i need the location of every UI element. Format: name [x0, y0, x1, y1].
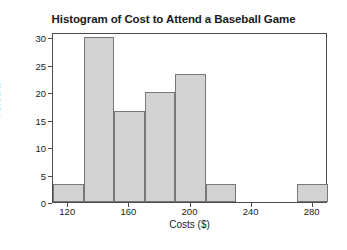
y-tick-label: 5	[2, 170, 46, 181]
x-tick-label: 200	[182, 206, 198, 217]
x-tick-label: 120	[59, 206, 75, 217]
bars-container	[53, 34, 326, 202]
y-tick-label: 30	[2, 33, 46, 44]
x-axis-label: Costs ($)	[52, 219, 327, 230]
histogram-bar	[175, 74, 206, 202]
histogram-bar	[206, 184, 237, 202]
x-tick-mark	[312, 203, 313, 207]
y-tick-label: 0	[2, 198, 46, 209]
y-tick-label: 25	[2, 60, 46, 71]
x-tick-label: 160	[120, 206, 136, 217]
y-tick-mark	[48, 203, 52, 204]
y-tick-label: 20	[2, 88, 46, 99]
x-tick-mark	[251, 203, 252, 207]
histogram-bar	[114, 111, 145, 202]
x-tick-mark	[190, 203, 191, 207]
histogram-bar	[145, 92, 176, 202]
x-tick-mark	[128, 203, 129, 207]
histogram-bar	[53, 184, 84, 202]
histogram-bar	[297, 184, 328, 202]
y-axis-label: Percent	[0, 84, 2, 118]
x-tick-label: 280	[304, 206, 320, 217]
plot-area	[52, 33, 327, 203]
y-tick-label: 15	[2, 115, 46, 126]
x-tick-mark	[67, 203, 68, 207]
chart-title: Histogram of Cost to Attend a Baseball G…	[0, 13, 347, 25]
histogram-bar	[84, 37, 115, 202]
histogram-figure: Histogram of Cost to Attend a Baseball G…	[0, 0, 347, 250]
y-tick-label: 10	[2, 143, 46, 154]
x-tick-label: 240	[243, 206, 259, 217]
